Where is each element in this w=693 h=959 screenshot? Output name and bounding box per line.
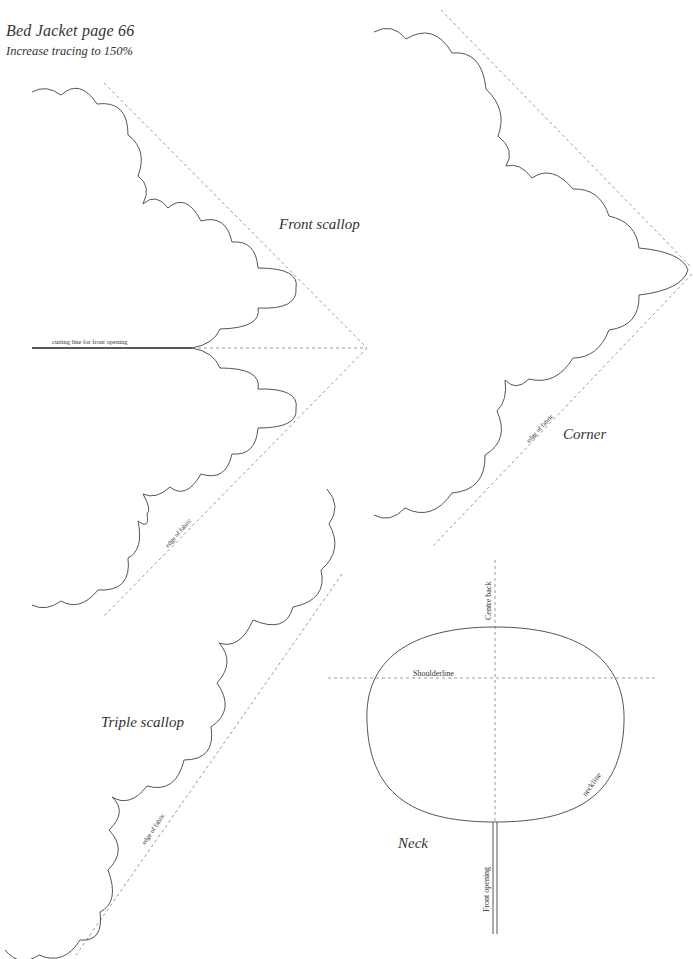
front-scallop-edge-label: edge of fabric — [163, 517, 192, 549]
triple-scallop-piece: Triple scallop edge of fabric — [5, 489, 342, 959]
neckline-label: neckline — [580, 770, 603, 798]
corner-piece: Corner edge of fabric — [374, 10, 692, 546]
corner-label: Corner — [563, 426, 607, 442]
cutting-line-label: cutting line for front opening — [52, 338, 128, 345]
triple-scallop-edge — [74, 574, 342, 958]
corner-edge-label: edge of fabric — [525, 412, 555, 443]
corner-edge-upper — [441, 10, 692, 268]
corner-edge-lower — [433, 274, 692, 546]
shoulderline-label: Shoulderline — [413, 669, 454, 678]
front-scallop-label: Front scallop — [278, 216, 360, 232]
front-scallop-edge-lower — [103, 348, 367, 617]
centre-back-label: Centre back — [484, 582, 493, 620]
front-scallop-upper-outline — [32, 88, 296, 348]
neck-label: Neck — [397, 835, 428, 851]
front-scallop-lower-outline — [32, 348, 296, 608]
front-opening-label: Front opening — [482, 867, 491, 912]
triple-scallop-edge-label: edge of fabric — [140, 812, 166, 846]
triple-scallop-label: Triple scallop — [101, 714, 184, 730]
front-scallop-piece: cutting line for front opening Front sca… — [32, 83, 367, 617]
corner-outline — [374, 28, 688, 518]
neck-piece: Centre back Shoulderline neckline Front … — [328, 560, 655, 934]
